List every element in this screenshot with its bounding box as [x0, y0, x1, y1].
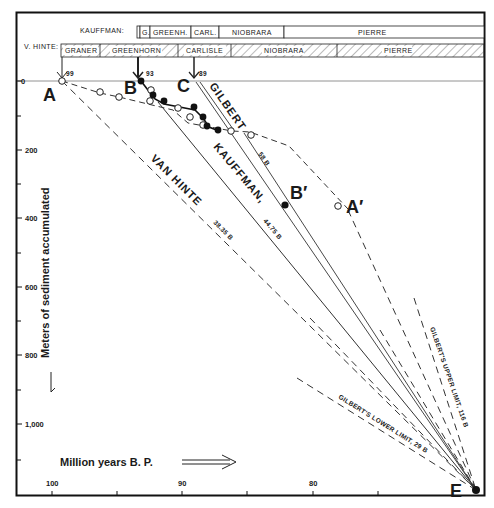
figure-frame [17, 13, 485, 496]
van-hinte-unit-graneros: GRANER [65, 47, 97, 54]
gilbert-line-a [196, 82, 476, 490]
gilbert-line-label: GILBERT [207, 80, 249, 132]
point-c-label: C [177, 76, 190, 96]
point-a-prime-label: A′ [346, 197, 363, 217]
van-hinte-unit-niobrara: NIOBRARA [264, 47, 304, 54]
y-tick-800: 800 [25, 351, 38, 360]
kauffman-line [158, 102, 476, 490]
x-tick-90: 90 [178, 479, 186, 488]
van-hinte-row-label: V. HINTE: [24, 43, 58, 50]
kauffman-rate-label: 44.75 B [262, 217, 283, 241]
x-axis-label: Million years B. P. [60, 456, 153, 468]
van-hinte-unit-pierre: PIERRE [384, 47, 412, 54]
filled-circle-points [138, 78, 289, 209]
y-tick-600: 600 [25, 283, 38, 292]
kauffman-row-label: KAUFFMAN: [80, 27, 124, 34]
kauffman-unit-g: G. [142, 29, 150, 36]
van-hinte-rate-label: 38.35 B [212, 219, 235, 242]
age-marker-99: 99 [57, 57, 74, 78]
kauffman-stratigraphy-row: KAUFFMAN: G. GREENH. CARL. NIOBRARA PIER… [80, 26, 484, 38]
svg-text:89: 89 [199, 70, 207, 77]
y-tick-200: 200 [25, 146, 38, 155]
y-axis [17, 81, 22, 460]
point-b-prime-label: B′ [290, 183, 307, 203]
kauffman-unit-niobrara: NIOBRARA [232, 29, 272, 36]
y-tick-400: 400 [25, 214, 38, 223]
point-a-label: A [43, 85, 56, 105]
x-axis [52, 491, 378, 495]
point-e-marker [472, 486, 480, 494]
svg-text:93: 93 [146, 70, 154, 77]
van-hinte-line-label: VAN HINTE [149, 152, 205, 208]
van-hinte-unit-carlisle: CARLISLE [186, 47, 223, 54]
a-prime-to-e-line [348, 210, 476, 490]
van-hinte-unit-greenhorn: GREENHORN [112, 47, 161, 54]
age-marker-89: 89 [189, 57, 207, 78]
gilbert-upper-limit-line [414, 298, 476, 490]
extra-dashed-line-2 [310, 318, 476, 490]
kauffman-unit-greenhorn: GREENH. [153, 29, 188, 36]
kauffman-line-label: KAUFFMAN, [211, 141, 268, 206]
x-axis-arrow-icon [182, 455, 236, 469]
van-hinte-stratigraphy-row: V. HINTE: GRANER GREENHORN CARLISLE NIOB… [24, 43, 484, 57]
sedimentation-rate-diagram: KAUFFMAN: G. GREENH. CARL. NIOBRARA PIER… [0, 0, 494, 508]
gilbert-upper-limit-label: GILBERT'S UPPER LIMIT, 116 B [428, 326, 470, 429]
y-axis-label: Meters of sediment accumulated [39, 187, 51, 358]
kauffman-unit-carlisle: CARL. [194, 29, 217, 36]
y-tick-0: 0 [21, 77, 25, 86]
point-b-label: B [124, 78, 137, 98]
gilbert-ext-line [244, 133, 476, 490]
point-e-label: E [450, 481, 462, 501]
x-tick-80: 80 [309, 479, 317, 488]
y-axis-arrow-icon [51, 372, 55, 392]
y-tick-1000: 1,000 [25, 420, 44, 429]
x-tick-100: 100 [46, 479, 59, 488]
van-hinte-line [62, 81, 476, 490]
age-marker-93: 93 [133, 57, 154, 78]
kauffman-unit-pierre: PIERRE [358, 29, 386, 36]
gilbert-lower-limit-line [297, 378, 476, 490]
svg-text:99: 99 [66, 70, 74, 77]
gilbert-rate-label: 58 B [257, 151, 271, 167]
